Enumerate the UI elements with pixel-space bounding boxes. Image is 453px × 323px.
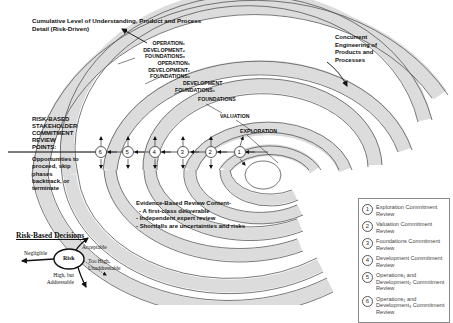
- legend-text: Exploration Commitment Review: [376, 204, 447, 217]
- review-legend: 1 Exploration Commitment Review 2 Valuat…: [358, 198, 450, 323]
- legend-text: Operations₁ and Development₂ Commitment …: [376, 272, 447, 292]
- phase-label-valuation: VALUATION: [220, 113, 250, 120]
- phase-label-op2: OPERATION₁ DEVELOPMENT₁ FOUNDATIONS₂: [135, 60, 190, 80]
- legend-row: 5 Operations₁ and Development₂ Commitmen…: [362, 272, 447, 292]
- legend-row: 3 Foundations Commitment Review: [362, 238, 447, 251]
- legend-number-circle: 6: [362, 296, 373, 307]
- opportunities-label: Opportunities to proceed, skip phases ba…: [32, 156, 79, 192]
- legend-number-circle: 1: [362, 204, 373, 215]
- legend-row: 4 Development Commitment Review: [362, 255, 447, 268]
- title-line-1: Cumulative Level of Understanding, Produ…: [32, 17, 201, 25]
- found-line: FOUNDATIONS₂: [135, 73, 190, 80]
- concurrent-line-2: Engineering of: [335, 42, 377, 50]
- rp-line: RISK-BASED: [32, 116, 77, 123]
- opp-line: Opportunities to: [32, 156, 79, 163]
- found-line: FOUNDATIONS₃: [125, 53, 185, 60]
- risk-center-label: Risk: [63, 255, 75, 262]
- review-point-4: 4: [153, 149, 156, 156]
- evidence-review-content: Evidence-Based Review Content- - A first…: [136, 200, 245, 230]
- review-point-6: 6: [99, 149, 102, 156]
- title-line-2: Detail (Risk-Driven): [32, 25, 201, 33]
- opp-line: proceed, skip: [32, 163, 79, 170]
- concurrent-line-4: Processes: [335, 57, 377, 65]
- concurrent-line-3: Products and: [335, 49, 377, 57]
- concurrent-engineering-label: Concurrent Engineering of Products and P…: [335, 34, 377, 64]
- addressable-line: Addressable: [44, 279, 74, 286]
- phase-label-development: DEVELOPMENT FOUNDATIONS₁: [175, 80, 223, 93]
- risk-decisions-heading: Risk-Based Decisions: [16, 232, 84, 239]
- legend-number-circle: 5: [362, 272, 373, 283]
- legend-number-circle: 2: [362, 221, 373, 232]
- outcome-too-high: Too High, Unaddressable: [88, 258, 120, 271]
- exploration-core: [245, 161, 281, 189]
- opp-line: phases: [32, 171, 79, 178]
- legend-text: Development Commitment Review: [376, 255, 447, 268]
- review-points-label: RISK-BASED STAKEHOLDER COMMITMENT REVIEW…: [32, 116, 77, 151]
- phase-label-foundations: FOUNDATIONS: [198, 96, 236, 103]
- rp-line: COMMITMENT: [32, 130, 77, 137]
- outcome-negligible: Negligible: [24, 250, 47, 257]
- rp-line: STAKEHOLDER: [32, 123, 77, 130]
- found-line: FOUNDATIONS₁: [175, 87, 223, 94]
- phase-label-exploration: EXPLORATION: [240, 128, 277, 135]
- opp-line: backtrack, or: [32, 178, 79, 185]
- legend-text: Foundations Commitment Review: [376, 238, 447, 251]
- review-point-1: 1: [238, 149, 241, 156]
- concurrent-line-1: Concurrent: [335, 34, 377, 42]
- review-point-5: 5: [126, 149, 129, 156]
- opp-line: terminate: [32, 185, 79, 192]
- outcome-acceptable: Acceptable: [82, 244, 107, 251]
- legend-row: 1 Exploration Commitment Review: [362, 204, 447, 217]
- legend-number-circle: 3: [362, 238, 373, 249]
- rp-line: POINTS:: [32, 144, 77, 151]
- legend-text: Valuation Commitment Review: [376, 221, 447, 234]
- rp-line: REVIEW: [32, 137, 77, 144]
- outcome-high-addressable: High, but Addressable: [44, 272, 74, 285]
- evidence-item: - A first-class deliverable: [136, 208, 245, 216]
- evidence-heading: Evidence-Based Review Content-: [136, 200, 245, 208]
- unaddressable-line: Unaddressable: [88, 265, 120, 272]
- legend-text: Operations₂ and Development₃ Commitment …: [376, 296, 447, 316]
- evidence-item: - Independent expert review: [136, 215, 245, 223]
- diagram-title: Cumulative Level of Understanding, Produ…: [32, 17, 201, 33]
- legend-row: 2 Valuation Commitment Review: [362, 221, 447, 234]
- evidence-item: - Shortfalls are uncertainties and risks: [136, 223, 245, 231]
- dev-line: DEVELOPMENT: [175, 80, 223, 87]
- review-point-2: 2: [209, 149, 212, 156]
- legend-number-circle: 4: [362, 255, 373, 266]
- phase-label-op3: OPERATION₁ DEVELOPMENT₂ FOUNDATIONS₃: [125, 40, 185, 60]
- review-point-3: 3: [181, 149, 184, 156]
- legend-row: 6 Operations₂ and Development₃ Commitmen…: [362, 296, 447, 316]
